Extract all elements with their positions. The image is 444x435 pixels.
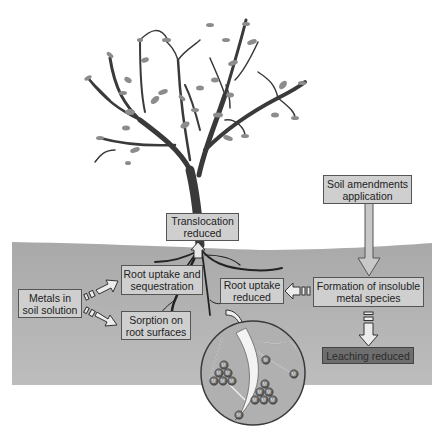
metal-ion: [235, 411, 243, 419]
metals-solution-line2: soil solution: [23, 304, 78, 316]
root-uptake-sequestration-box: Root uptake and sequestration: [121, 265, 203, 295]
sorption-line2: root surfaces: [126, 326, 187, 338]
metal-ion: [290, 370, 298, 378]
sorption-line1: Sorption on: [129, 314, 183, 326]
insoluble-formation-line1: Formation of insoluble: [317, 280, 420, 292]
root-uptake-seq-line1: Root uptake and: [123, 268, 200, 280]
leaching-line1: Leaching reduced: [326, 350, 409, 362]
translocation-line1: Translocation: [171, 215, 234, 227]
sorption-box: Sorption on root surfaces: [121, 311, 191, 340]
soil-amendments-line1: Soil amendments: [327, 178, 408, 190]
metal-ion: [262, 356, 270, 364]
tree: [88, 20, 305, 245]
soil-amendments-box: Soil amendments application: [323, 175, 412, 204]
inset-root-zone: [201, 321, 305, 425]
insoluble-formation-box: Formation of insoluble metal species: [313, 277, 424, 307]
root-uptake-reduced-line2: reduced: [233, 291, 271, 303]
metals-solution-line1: Metals in: [29, 292, 71, 304]
metals-solution-box: Metals in soil solution: [18, 289, 82, 318]
translocation-box: Translocation reduced: [166, 213, 239, 241]
leaching-reduced-box: Leaching reduced: [322, 347, 414, 364]
soil-amendments-line2: application: [342, 190, 392, 202]
root-uptake-reduced-box: Root uptake reduced: [220, 278, 284, 304]
translocation-line2: reduced: [184, 227, 222, 239]
root-uptake-seq-line2: sequestration: [130, 280, 193, 292]
root-uptake-reduced-line1: Root uptake: [224, 279, 281, 291]
insoluble-formation-line2: metal species: [336, 292, 400, 304]
